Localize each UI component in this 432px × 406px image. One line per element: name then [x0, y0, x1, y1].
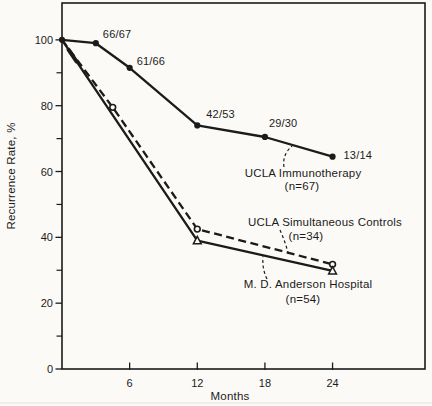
- y-tick-label: 100: [35, 34, 53, 46]
- filled-circle-marker: [329, 154, 335, 160]
- x-tick-label: 6: [127, 377, 133, 389]
- series-annotation-n: (n=54): [286, 293, 321, 305]
- x-tick-label: 18: [259, 377, 271, 389]
- y-tick-label: 40: [41, 231, 53, 243]
- series-annotation-n: (n=67): [285, 180, 320, 192]
- y-tick-label: 60: [41, 166, 53, 178]
- filled-circle-marker: [93, 40, 99, 46]
- figure-background: [0, 0, 432, 406]
- series-annotation-name: UCLA Immunotherapy: [245, 167, 362, 179]
- recurrence-rate-line-chart: 0204060801006121824Recurrence Rate, %Mon…: [0, 0, 432, 406]
- scan-artifact-line: [0, 403, 432, 404]
- y-tick-label: 20: [41, 297, 53, 309]
- y-tick-label: 0: [47, 363, 53, 375]
- x-axis-title: Months: [211, 390, 250, 402]
- chart-figure: 0204060801006121824Recurrence Rate, %Mon…: [0, 0, 432, 406]
- filled-circle-marker: [127, 65, 133, 71]
- data-label: 66/67: [103, 28, 132, 40]
- open-circle-marker: [194, 226, 200, 232]
- filled-circle-marker: [194, 122, 200, 128]
- x-tick-label: 12: [191, 377, 203, 389]
- data-label: 13/14: [344, 149, 373, 161]
- filled-circle-marker: [262, 134, 268, 140]
- x-tick-label: 24: [326, 377, 338, 389]
- series-annotation-n: (n=34): [289, 230, 324, 242]
- series-annotation-name: UCLA Simultaneous Controls: [248, 216, 402, 228]
- y-tick-label: 80: [41, 100, 53, 112]
- data-label: 42/53: [206, 108, 235, 120]
- y-axis-title: Recurrence Rate, %: [5, 122, 17, 229]
- data-label: 61/66: [137, 55, 166, 67]
- data-label: 29/30: [269, 117, 298, 129]
- series-annotation-name: M. D. Anderson Hospital: [244, 278, 373, 290]
- open-circle-marker: [110, 104, 116, 110]
